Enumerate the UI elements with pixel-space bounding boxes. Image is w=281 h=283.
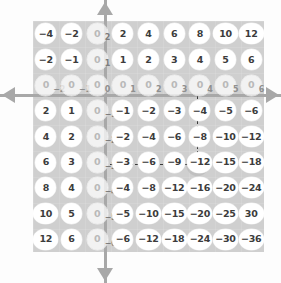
grid-cell[interactable]: 03 — [161, 72, 187, 98]
grid-cell[interactable]: 3 — [59, 149, 85, 175]
grid-cell[interactable]: −2 — [33, 47, 59, 73]
arrow-up-icon — [97, 2, 113, 15]
grid-cell[interactable]: 0−6 — [84, 226, 110, 252]
grid-cell[interactable]: 8 — [33, 175, 59, 201]
cell-bubble: −36 — [239, 229, 264, 250]
grid-cell[interactable]: −8 — [187, 124, 213, 150]
cell-bubble: −1 — [61, 49, 82, 70]
grid-cell[interactable]: 6 — [59, 226, 85, 252]
grid-cell[interactable]: 05 — [213, 72, 239, 98]
grid-cell[interactable]: −6 — [110, 226, 136, 252]
grid-cell[interactable]: −5 — [110, 201, 136, 227]
grid-cell[interactable]: 8 — [187, 21, 213, 47]
cell-bubble: −5 — [215, 100, 236, 121]
grid-cell[interactable]: 3 — [161, 47, 187, 73]
cell-bubble: −2 — [112, 126, 133, 147]
grid-cell[interactable]: 00 — [84, 72, 110, 98]
grid-cell[interactable]: −10 — [136, 201, 162, 227]
multiplication-grid: −4−20224681012−2−1011234560−20−100010203… — [33, 21, 264, 252]
cell-bubble: 8 — [35, 177, 56, 198]
grid-cell[interactable]: −6 — [161, 124, 187, 150]
grid-cell[interactable]: 10 — [33, 201, 59, 227]
grid-cell[interactable]: −24 — [187, 226, 213, 252]
grid-cell[interactable]: −20 — [187, 201, 213, 227]
grid-cell[interactable]: −15 — [213, 149, 239, 175]
grid-cell[interactable]: −15 — [161, 201, 187, 227]
grid-cell[interactable]: 01 — [110, 72, 136, 98]
grid-cell[interactable]: 2 — [33, 98, 59, 124]
cell-bubble: −12 — [187, 152, 212, 173]
grid-cell[interactable]: 4 — [136, 21, 162, 47]
grid-cell[interactable]: 6 — [161, 21, 187, 47]
grid-cell[interactable]: 01 — [84, 47, 110, 73]
cell-bubble: 0−4 — [87, 177, 108, 198]
cell-bubble: −16 — [187, 177, 212, 198]
grid-cell[interactable]: 2 — [136, 47, 162, 73]
grid-cell[interactable]: −30 — [213, 226, 239, 252]
grid-cell[interactable]: 4 — [187, 47, 213, 73]
grid-cell[interactable]: 12 — [238, 21, 264, 47]
grid-cell[interactable]: 5 — [59, 201, 85, 227]
grid-cell[interactable]: −4 — [187, 98, 213, 124]
grid-cell[interactable]: −10 — [213, 124, 239, 150]
grid-cell[interactable]: 0−3 — [84, 149, 110, 175]
grid-cell[interactable]: 0−2 — [33, 72, 59, 98]
grid-cell[interactable]: 06 — [238, 72, 264, 98]
grid-cell[interactable]: −6 — [136, 149, 162, 175]
grid-cell[interactable]: 02 — [136, 72, 162, 98]
grid-cell[interactable]: −18 — [161, 226, 187, 252]
grid-cell[interactable]: −4 — [33, 21, 59, 47]
grid-cell[interactable]: 5 — [213, 47, 239, 73]
cell-bubble: 2 — [138, 49, 159, 70]
grid-cell[interactable]: −36 — [238, 226, 264, 252]
grid-cell[interactable]: 02 — [84, 21, 110, 47]
grid-cell[interactable]: 30 — [238, 201, 264, 227]
grid-cell[interactable]: 0−1 — [84, 98, 110, 124]
cell-bubble: 2 — [112, 23, 133, 44]
grid-cell[interactable]: −12 — [136, 226, 162, 252]
grid-cell[interactable]: 0−1 — [59, 72, 85, 98]
grid-cell[interactable]: −25 — [213, 201, 239, 227]
cell-bubble: −18 — [162, 229, 187, 250]
cell-subscript: 3 — [182, 86, 187, 94]
cell-bubble: 3 — [61, 152, 82, 173]
cell-bubble: −4 — [112, 177, 133, 198]
grid-cell[interactable]: 10 — [213, 21, 239, 47]
grid-cell[interactable]: 4 — [59, 175, 85, 201]
grid-cell[interactable]: 1 — [59, 98, 85, 124]
grid-cell[interactable]: 6 — [238, 47, 264, 73]
grid-cell[interactable]: −5 — [213, 98, 239, 124]
grid-cell[interactable]: 2 — [110, 21, 136, 47]
grid-cell[interactable]: −2 — [110, 124, 136, 150]
grid-cell[interactable]: −12 — [238, 124, 264, 150]
cell-bubble: 02 — [138, 75, 159, 96]
grid-cell[interactable]: −2 — [136, 98, 162, 124]
grid-cell[interactable]: −4 — [136, 124, 162, 150]
grid-cell[interactable]: 4 — [33, 124, 59, 150]
grid-cell[interactable]: −6 — [238, 98, 264, 124]
cell-bubble: 1 — [112, 49, 133, 70]
grid-cell[interactable]: −16 — [187, 175, 213, 201]
grid-cell[interactable]: −1 — [59, 47, 85, 73]
grid-cell[interactable]: 1 — [110, 47, 136, 73]
grid-cell[interactable]: −8 — [136, 175, 162, 201]
cell-bubble: −4 — [189, 100, 210, 121]
grid-cell[interactable]: −9 — [161, 149, 187, 175]
grid-cell[interactable]: −12 — [161, 175, 187, 201]
grid-cell[interactable]: −3 — [110, 149, 136, 175]
grid-cell[interactable]: −2 — [59, 21, 85, 47]
grid-cell[interactable]: 04 — [187, 72, 213, 98]
grid-cell[interactable]: −18 — [238, 149, 264, 175]
grid-cell[interactable]: −4 — [110, 175, 136, 201]
grid-cell[interactable]: 0−2 — [84, 124, 110, 150]
grid-cell[interactable]: −24 — [238, 175, 264, 201]
grid-cell[interactable]: −1 — [110, 98, 136, 124]
grid-cell[interactable]: 0−4 — [84, 175, 110, 201]
grid-cell[interactable]: 2 — [59, 124, 85, 150]
grid-cell[interactable]: −20 — [213, 175, 239, 201]
grid-cell[interactable]: −3 — [161, 98, 187, 124]
grid-cell[interactable]: 0−5 — [84, 201, 110, 227]
cell-bubble: 0−5 — [87, 203, 108, 224]
grid-cell[interactable]: 6 — [33, 149, 59, 175]
grid-cell[interactable]: 12 — [33, 226, 59, 252]
